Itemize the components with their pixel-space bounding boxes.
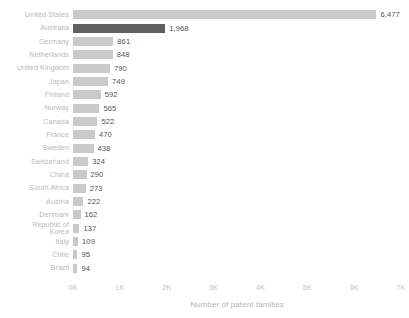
bar[interactable]: [73, 130, 95, 139]
bar[interactable]: [73, 90, 101, 99]
bar-and-value: 109: [73, 235, 95, 248]
value-label: 137: [83, 224, 96, 233]
value-label: 438: [98, 144, 111, 153]
x-tick-label: 4K: [256, 283, 265, 292]
category-label: Netherlands: [0, 51, 69, 59]
bar-row[interactable]: Australia1,968: [0, 21, 409, 34]
bar-and-value: 6,477: [73, 8, 400, 21]
bar-row[interactable]: Austria222: [0, 195, 409, 208]
bar-and-value: 162: [73, 208, 97, 221]
category-label: Chile: [0, 251, 69, 259]
bar-and-value: 522: [73, 115, 114, 128]
value-label: 790: [114, 64, 127, 73]
value-label: 109: [82, 237, 95, 246]
bar[interactable]: [73, 170, 87, 179]
category-label: Republic of Korea: [0, 221, 69, 236]
bar-row[interactable]: Netherlands848: [0, 48, 409, 61]
bar[interactable]: [73, 77, 108, 86]
bar[interactable]: [73, 10, 376, 19]
category-label: Germany: [0, 38, 69, 46]
bar[interactable]: [73, 104, 99, 113]
category-label: Sweden: [0, 144, 69, 152]
bar-and-value: 137: [73, 222, 96, 235]
bar-row[interactable]: Republic of Korea137: [0, 222, 409, 235]
bar-row[interactable]: Norway565: [0, 101, 409, 114]
bar-and-value: 592: [73, 88, 118, 101]
bar-highlighted[interactable]: [73, 24, 165, 33]
category-label: China: [0, 171, 69, 179]
value-label: 94: [81, 264, 90, 273]
bar-row[interactable]: United States6,477: [0, 8, 409, 21]
category-label: United Kingdom: [0, 64, 69, 72]
bar-row[interactable]: Japan749: [0, 75, 409, 88]
bar-row[interactable]: Chile95: [0, 248, 409, 261]
bar[interactable]: [73, 237, 78, 246]
x-tick-label: 2K: [162, 283, 171, 292]
bar-row[interactable]: Finland592: [0, 88, 409, 101]
bar-row[interactable]: Switzerland324: [0, 155, 409, 168]
value-label: 6,477: [380, 10, 399, 19]
x-tick-label: 7K: [397, 283, 406, 292]
x-tick-label: 3K: [209, 283, 218, 292]
x-axis-title: Number of patent families: [73, 300, 401, 309]
value-label: 95: [81, 250, 90, 259]
category-label: Australia: [0, 24, 69, 32]
category-label: Italy: [0, 238, 69, 246]
category-label: United States: [0, 11, 69, 19]
bar[interactable]: [73, 144, 94, 153]
bar-row[interactable]: Brazil94: [0, 262, 409, 275]
value-label: 522: [101, 117, 114, 126]
x-tick-label: 0K: [69, 283, 78, 292]
x-tick-label: 1K: [115, 283, 124, 292]
value-label: 222: [87, 197, 100, 206]
bar[interactable]: [73, 117, 97, 126]
value-label: 1,968: [169, 24, 188, 33]
bar[interactable]: [73, 224, 79, 233]
bar-and-value: 1,968: [73, 21, 188, 34]
bar-row[interactable]: China290: [0, 168, 409, 181]
bar-row[interactable]: Germany861: [0, 35, 409, 48]
bar[interactable]: [73, 264, 77, 273]
bar-rows-container: United States6,477Australia1,968Germany8…: [0, 8, 409, 275]
value-label: 749: [112, 77, 125, 86]
x-tick-label: 6K: [350, 283, 359, 292]
category-label: Canada: [0, 118, 69, 126]
category-label: South Africa: [0, 184, 69, 192]
bar-and-value: 222: [73, 195, 100, 208]
bar-row[interactable]: South Africa273: [0, 181, 409, 194]
bar-and-value: 438: [73, 141, 110, 154]
value-label: 273: [90, 184, 103, 193]
category-label: Austria: [0, 198, 69, 206]
category-label: Norway: [0, 104, 69, 112]
value-label: 162: [85, 210, 98, 219]
bar-row[interactable]: Canada522: [0, 115, 409, 128]
bar-row[interactable]: Sweden438: [0, 141, 409, 154]
category-label: Switzerland: [0, 158, 69, 166]
value-label: 470: [99, 130, 112, 139]
category-label: Brazil: [0, 264, 69, 272]
value-label: 565: [103, 104, 116, 113]
value-label: 290: [91, 170, 104, 179]
bar[interactable]: [73, 250, 77, 259]
category-label: Finland: [0, 91, 69, 99]
x-axis-ticks: 0K1K2K3K4K5K6K7K: [0, 283, 409, 297]
patent-families-bar-chart: United States6,477Australia1,968Germany8…: [0, 0, 409, 318]
bar[interactable]: [73, 210, 81, 219]
bar[interactable]: [73, 157, 88, 166]
category-label: Japan: [0, 78, 69, 86]
category-label: France: [0, 131, 69, 139]
bar[interactable]: [73, 50, 113, 59]
bar[interactable]: [73, 184, 86, 193]
bar-and-value: 848: [73, 48, 130, 61]
bar[interactable]: [73, 197, 83, 206]
bar-row[interactable]: United Kingdom790: [0, 61, 409, 74]
value-label: 848: [117, 50, 130, 59]
bar-and-value: 565: [73, 101, 116, 114]
bar-and-value: 273: [73, 181, 103, 194]
bar[interactable]: [73, 37, 113, 46]
bar-row[interactable]: France470: [0, 128, 409, 141]
bar-row[interactable]: Italy109: [0, 235, 409, 248]
bar[interactable]: [73, 64, 110, 73]
value-label: 861: [117, 37, 130, 46]
bar-and-value: 95: [73, 248, 90, 261]
